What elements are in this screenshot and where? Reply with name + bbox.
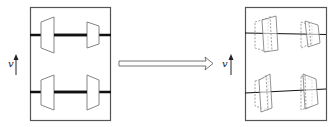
right-wheel [305, 21, 320, 47]
left-wheel [41, 17, 54, 53]
arrow-right-icon [119, 57, 213, 70]
velocity-label: v [8, 58, 14, 69]
right-wheel [87, 75, 99, 110]
right-front-wheelset [245, 16, 326, 52]
right-panel [245, 8, 327, 121]
left-front-wheelset [30, 17, 111, 53]
left-wheel [259, 74, 272, 112]
velocity-arrow-icon [14, 54, 19, 60]
left-wheel [41, 75, 54, 110]
diagram-canvas: v v [0, 0, 330, 127]
transition-arrow [119, 57, 213, 70]
left-rear-wheelset [30, 75, 111, 110]
right-wheel [87, 22, 99, 48]
right-velocity-indicator: v [222, 54, 234, 75]
velocity-arrow-icon [229, 54, 234, 60]
velocity-label: v [222, 58, 228, 69]
left-velocity-indicator: v [8, 54, 19, 75]
right-rear-wheelset [245, 74, 326, 112]
left-panel [30, 8, 111, 121]
